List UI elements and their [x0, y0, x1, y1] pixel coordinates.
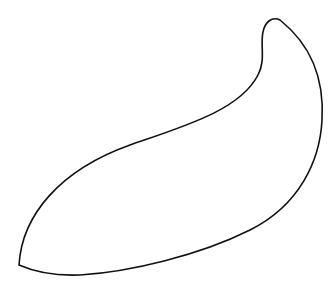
- drawing-canvas: [0, 0, 334, 291]
- leaf-outline: [19, 19, 322, 275]
